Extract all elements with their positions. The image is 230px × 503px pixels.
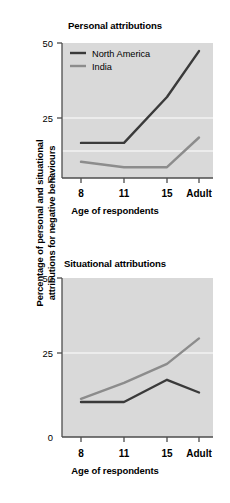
x-tick-label-8-top: 8	[78, 188, 84, 199]
panel-situational-attributions: Situational attributions 50 25 0 8 11	[0, 250, 230, 503]
x-tick-label-adult-bottom: Adult	[186, 448, 212, 459]
x-tick-label-8-bottom: 8	[78, 448, 84, 459]
y-tick-label-50-bottom: 50	[43, 273, 53, 284]
x-tick-label-adult-top: Adult	[186, 188, 212, 199]
chart-top-svg: 50 25 0 8 11 15 Adult North America Indi…	[0, 0, 230, 232]
plot-background-bottom	[62, 278, 213, 437]
y-tick-label-0-bottom: 0	[48, 432, 53, 443]
x-axis-label-top: Age of respondents	[0, 205, 230, 216]
y-tick-label-50-top: 50	[43, 38, 53, 49]
y-tick-label-25-bottom: 25	[43, 348, 53, 359]
y-tick-label-0-top: 0	[48, 173, 53, 184]
x-tick-label-15-top: 15	[161, 188, 173, 199]
legend-label-north-america: North America	[92, 49, 151, 59]
x-tick-label-11-bottom: 11	[119, 448, 130, 459]
x-tick-label-15-bottom: 15	[161, 448, 173, 459]
x-axis-label-bottom: Age of respondents	[0, 465, 230, 476]
y-tick-label-25-top: 25	[43, 113, 53, 124]
panel-personal-attributions: Personal attributions 50 25 0 8	[0, 0, 230, 232]
x-tick-label-11-top: 11	[119, 188, 130, 199]
legend-label-india: India	[92, 62, 113, 72]
figure-container: Percentage of personal and situational a…	[0, 0, 230, 503]
